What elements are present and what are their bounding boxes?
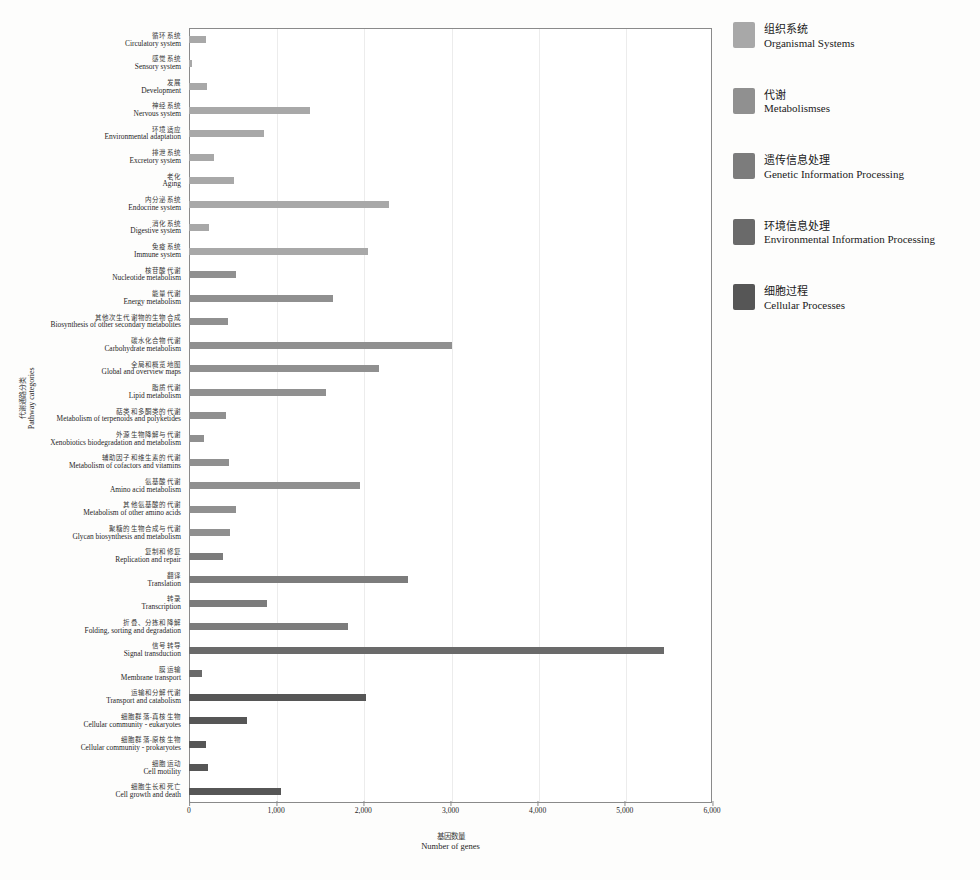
bar[interactable] <box>189 459 229 466</box>
bar[interactable] <box>189 764 208 771</box>
bar[interactable] <box>189 670 202 677</box>
bar-row[interactable] <box>189 224 712 231</box>
bar[interactable] <box>189 177 234 184</box>
bar[interactable] <box>189 694 366 701</box>
bar[interactable] <box>189 130 264 137</box>
bar-row[interactable] <box>189 295 712 302</box>
y-tick-label: 折叠、分拣和降解Folding, sorting and degradation <box>85 620 181 635</box>
bar[interactable] <box>189 271 236 278</box>
bar-row[interactable] <box>189 764 712 771</box>
bar[interactable] <box>189 741 206 748</box>
bar[interactable] <box>189 295 333 302</box>
bar-row[interactable] <box>189 435 712 442</box>
bar-row[interactable] <box>189 177 712 184</box>
bar[interactable] <box>189 482 360 489</box>
bar[interactable] <box>189 435 204 442</box>
x-tick-label: 5,000 <box>616 806 633 815</box>
bar-row[interactable] <box>189 529 712 536</box>
x-tick-label: 6,000 <box>703 806 720 815</box>
legend-item[interactable]: 遗传信息处理Genetic Information Processing <box>733 153 973 182</box>
y-tick-label-en: Development <box>141 86 181 94</box>
y-tick-label: 感觉系统Sensory system <box>135 56 181 71</box>
bar[interactable] <box>189 201 389 208</box>
y-tick-label: 循环系统Circulatory system <box>125 32 181 47</box>
bar-row[interactable] <box>189 670 712 677</box>
legend-item[interactable]: 细胞过程Cellular Processes <box>733 284 973 313</box>
bar-row[interactable] <box>189 201 712 208</box>
bar[interactable] <box>189 342 452 349</box>
bar-row[interactable] <box>189 717 712 724</box>
bar-row[interactable] <box>189 482 712 489</box>
legend-item[interactable]: 环境信息处理Environmental Information Processi… <box>733 219 973 248</box>
y-tick-label: 神经系统Nervous system <box>134 103 181 118</box>
legend-label: 遗传信息处理Genetic Information Processing <box>764 153 904 182</box>
legend-label: 细胞过程Cellular Processes <box>764 284 845 313</box>
bar[interactable] <box>189 506 236 513</box>
bar[interactable] <box>189 83 207 90</box>
bar-row[interactable] <box>189 342 712 349</box>
bar-row[interactable] <box>189 741 712 748</box>
bar[interactable] <box>189 576 408 583</box>
bar[interactable] <box>189 412 226 419</box>
legend-swatch <box>733 284 755 310</box>
y-tick-label: 内分泌系统Endocrine system <box>128 197 181 212</box>
bar[interactable] <box>189 154 214 161</box>
bar-row[interactable] <box>189 365 712 372</box>
legend-label: 组织系统Organismal Systems <box>764 22 855 51</box>
y-tick-label: 细胞生长和死亡Cell growth and death <box>116 784 181 799</box>
y-tick-label: 信号转导Signal transduction <box>124 643 181 658</box>
y-tick-label-en: Nucleotide metabolism <box>112 274 181 282</box>
bar-row[interactable] <box>189 271 712 278</box>
bar[interactable] <box>189 529 230 536</box>
bar-row[interactable] <box>189 130 712 137</box>
bar[interactable] <box>189 107 310 114</box>
bar-row[interactable] <box>189 36 712 43</box>
x-tick-label: 0 <box>187 806 191 815</box>
y-tick-label-en: Digestive system <box>130 227 181 235</box>
bar[interactable] <box>189 553 223 560</box>
bar-row[interactable] <box>189 107 712 114</box>
legend: 组织系统Organismal Systems代谢Metabolismses遗传信… <box>733 22 973 350</box>
bar[interactable] <box>189 318 228 325</box>
bar-row[interactable] <box>189 600 712 607</box>
y-tick-label-en: Signal transduction <box>124 650 181 658</box>
bar[interactable] <box>189 717 247 724</box>
bar[interactable] <box>189 365 379 372</box>
bar[interactable] <box>189 389 326 396</box>
bar[interactable] <box>189 60 192 67</box>
bar-row[interactable] <box>189 553 712 560</box>
y-tick-label: 核苷酸代谢Nucleotide metabolism <box>112 267 181 282</box>
y-axis-tick-labels: 循环系统Circulatory system感觉系统Sensory system… <box>0 28 186 803</box>
legend-swatch <box>733 153 755 179</box>
bar-row[interactable] <box>189 318 712 325</box>
bar-row[interactable] <box>189 248 712 255</box>
bar[interactable] <box>189 600 267 607</box>
bar-row[interactable] <box>189 412 712 419</box>
bar-row[interactable] <box>189 60 712 67</box>
bar[interactable] <box>189 248 368 255</box>
y-tick-label: 其他氨基酸的代谢Metabolism of other amino acids <box>83 502 181 517</box>
y-tick-label: 翻译Translation <box>148 573 181 588</box>
bar-row[interactable] <box>189 647 712 654</box>
bar-row[interactable] <box>189 788 712 795</box>
bar-row[interactable] <box>189 83 712 90</box>
bar-row[interactable] <box>189 389 712 396</box>
bar-row[interactable] <box>189 623 712 630</box>
legend-item[interactable]: 代谢Metabolismses <box>733 88 973 117</box>
bar[interactable] <box>189 647 664 654</box>
bar-row[interactable] <box>189 506 712 513</box>
bar[interactable] <box>189 623 348 630</box>
x-tick-mark <box>712 801 713 806</box>
bar[interactable] <box>189 224 209 231</box>
bar[interactable] <box>189 36 206 43</box>
y-tick-label: 转录Transcription <box>141 596 181 611</box>
bar-row[interactable] <box>189 576 712 583</box>
y-tick-label-en: Metabolism of cofactors and vitamins <box>69 462 181 470</box>
bar-row[interactable] <box>189 694 712 701</box>
bar-row[interactable] <box>189 459 712 466</box>
legend-item[interactable]: 组织系统Organismal Systems <box>733 22 973 51</box>
bar[interactable] <box>189 788 281 795</box>
legend-label-cn: 组织系统 <box>764 23 855 37</box>
bar-row[interactable] <box>189 154 712 161</box>
y-tick-label-en: Circulatory system <box>125 39 181 47</box>
